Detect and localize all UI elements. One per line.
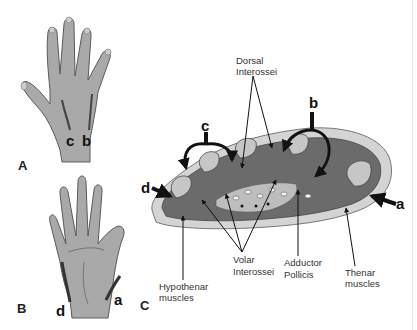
- volar-hand-silhouette: [50, 176, 124, 318]
- thumbnail: [21, 82, 27, 90]
- panel-a-dorsal-hand: c b A: [18, 17, 111, 173]
- panel-label-a: A: [18, 158, 28, 173]
- panel-b-volar-hand: d a B: [17, 176, 124, 319]
- label-thenar-muscles-1: Thenar: [345, 267, 375, 278]
- label-adductor-pollicis-1: Adductor: [284, 257, 322, 268]
- fingernail: [84, 28, 90, 34]
- label-thenar-muscles-2: muscles: [345, 278, 380, 289]
- site-label-b-cross: b: [309, 94, 318, 111]
- label-hypothenar-muscles-1: Hypothenar: [159, 281, 208, 292]
- panel-c-cross-section: c b d a C Dorsal Interossei Volar Intero…: [140, 55, 405, 313]
- site-label-b: b: [82, 132, 91, 149]
- site-label-d: d: [56, 302, 65, 319]
- label-dorsal-interossei-2: Interossei: [236, 66, 277, 77]
- panel-label-c: C: [140, 298, 150, 313]
- label-volar-interossei-1: Volar: [233, 254, 255, 265]
- fingernail: [105, 49, 111, 55]
- hand-compartment-figure: c b A d a B: [0, 0, 417, 330]
- fingernail: [49, 27, 55, 33]
- site-label-d-cross: d: [141, 179, 150, 196]
- site-label-c-cross: c: [201, 117, 209, 134]
- pointer-thenar: [346, 208, 355, 266]
- label-volar-interossei-2: Interossei: [233, 266, 274, 277]
- fingernail: [66, 17, 72, 23]
- site-label-a: a: [114, 291, 123, 308]
- label-dorsal-interossei-1: Dorsal: [236, 55, 263, 66]
- label-hypothenar-muscles-2: muscles: [159, 292, 194, 303]
- panel-label-b: B: [17, 301, 26, 316]
- label-adductor-pollicis-2: Pollicis: [284, 269, 314, 280]
- site-label-a-cross: a: [396, 195, 405, 212]
- site-label-c: c: [66, 132, 74, 149]
